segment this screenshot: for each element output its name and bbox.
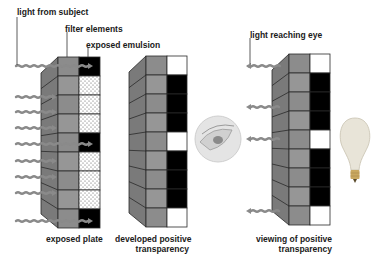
light-ray-arrow-icon bbox=[16, 143, 88, 145]
label-developed-positive-line2: transparency bbox=[115, 244, 189, 254]
panel-viewing-of-positive-transparency bbox=[272, 54, 330, 225]
light-ray-arrow-icon bbox=[16, 127, 52, 129]
light-ray-arrow-icon bbox=[16, 65, 88, 67]
light-ray-arrow-icon bbox=[16, 192, 52, 194]
arrowhead-icon bbox=[246, 208, 251, 214]
label-viewing-positive: viewing of positive transparency bbox=[256, 234, 332, 254]
label-exposed-emulsion: exposed emulsion bbox=[86, 40, 160, 50]
panel-developed-positive-transparency bbox=[129, 56, 187, 227]
light-ray-arrow-icon bbox=[16, 111, 52, 113]
light-ray-arrow-icon bbox=[16, 220, 88, 222]
label-developed-positive-line1: developed positive bbox=[115, 234, 189, 244]
label-viewing-positive-line1: viewing of positive bbox=[256, 234, 332, 244]
eye-icon bbox=[195, 116, 241, 162]
label-filter-elements: filter elements bbox=[65, 24, 123, 34]
light-ray-arrow-icon bbox=[16, 160, 52, 162]
arrowhead-icon bbox=[246, 104, 251, 110]
light-ray-arrow-icon bbox=[251, 210, 279, 212]
light-bulb-icon bbox=[340, 118, 370, 183]
light-ray-arrow-icon bbox=[248, 65, 280, 67]
light-ray-arrow-icon bbox=[251, 138, 279, 140]
light-ray-arrow-icon bbox=[251, 106, 279, 108]
light-ray-arrow-icon bbox=[16, 176, 52, 178]
label-viewing-positive-line2: transparency bbox=[256, 244, 332, 254]
label-light-from-subject: light from subject bbox=[17, 7, 88, 17]
arrowhead-icon bbox=[246, 136, 251, 142]
diagram-canvas bbox=[0, 0, 379, 268]
label-exposed-plate: exposed plate bbox=[46, 234, 103, 244]
label-developed-positive: developed positive transparency bbox=[115, 234, 189, 254]
light-ray-arrow-icon bbox=[16, 96, 52, 98]
label-light-reaching-eye: light reaching eye bbox=[250, 30, 322, 40]
